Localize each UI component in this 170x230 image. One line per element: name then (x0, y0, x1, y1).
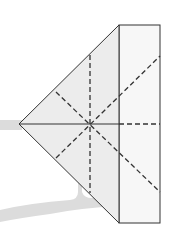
fold-diagram (0, 0, 170, 230)
shadow-left-stub (0, 120, 22, 130)
